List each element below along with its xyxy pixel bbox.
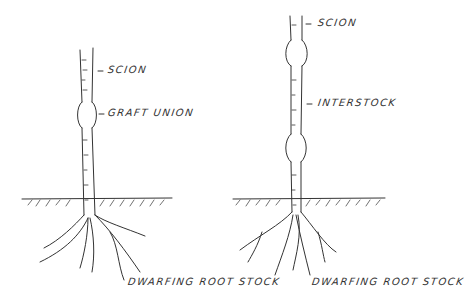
right-scion-label: SCION bbox=[317, 17, 358, 28]
right-interstock-label: INTERSTOCK bbox=[317, 97, 397, 108]
left-graft-union-label: GRAFT UNION bbox=[107, 107, 195, 118]
right-tree bbox=[233, 16, 385, 275]
left-rootstock-label: DWARFING ROOT STOCK bbox=[127, 276, 281, 287]
left-tree bbox=[22, 48, 172, 280]
right-rootstock-label: DWARFING ROOT STOCK bbox=[311, 276, 465, 287]
left-scion-label: SCION bbox=[107, 64, 148, 75]
